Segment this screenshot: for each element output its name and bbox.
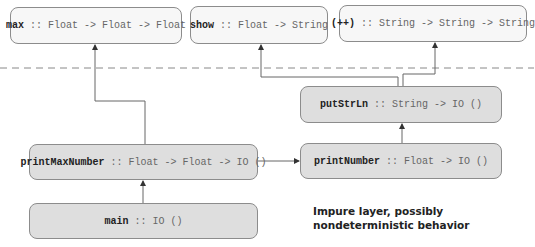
function-name: max bbox=[6, 20, 24, 31]
function-name: (++) bbox=[331, 18, 355, 29]
edge-printmaxnumber-max bbox=[95, 45, 145, 144]
function-name: printNumber bbox=[314, 156, 380, 167]
type-signature: :: Float -> String bbox=[214, 20, 328, 31]
caption-line-2: nondeterministic behavior bbox=[313, 218, 470, 232]
function-name: show bbox=[190, 20, 214, 31]
type-signature: :: Float -> Float -> Float bbox=[24, 20, 186, 31]
node-printnumber: printNumber :: Float -> IO () bbox=[300, 143, 502, 179]
function-name: main bbox=[104, 216, 128, 227]
type-signature: :: IO () bbox=[129, 216, 183, 227]
caption-line-1: Impure layer, possibly bbox=[313, 204, 470, 218]
node-show: show :: Float -> String bbox=[190, 6, 328, 44]
node-printmaxnumber: printMaxNumber :: Float -> Float -> IO (… bbox=[29, 144, 258, 180]
edge-putstrln-show bbox=[261, 45, 398, 86]
type-signature: :: String -> String -> String bbox=[355, 18, 535, 29]
impure-layer-caption: Impure layer, possibly nondeterministic … bbox=[313, 204, 470, 232]
node-main: main :: IO () bbox=[29, 203, 258, 239]
type-signature: :: Float -> Float -> IO () bbox=[105, 157, 267, 168]
function-name: putStrLn bbox=[320, 99, 368, 110]
function-name: printMaxNumber bbox=[20, 157, 104, 168]
edge-putstrln-concat bbox=[403, 43, 435, 86]
node-putstrln: putStrLn :: String -> IO () bbox=[300, 86, 502, 123]
node-concat: (++) :: String -> String -> String bbox=[339, 5, 527, 42]
node-max: max :: Float -> Float -> Float bbox=[10, 7, 182, 44]
type-signature: :: Float -> IO () bbox=[380, 156, 488, 167]
type-signature: :: String -> IO () bbox=[368, 99, 482, 110]
